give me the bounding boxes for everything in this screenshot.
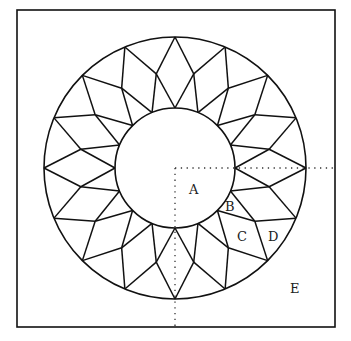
star-edge — [217, 210, 228, 247]
star-edge — [175, 74, 194, 108]
star-edge — [235, 168, 269, 187]
label-d: D — [268, 229, 278, 244]
star-edge — [230, 115, 254, 145]
diagram-canvas: A B C D E — [0, 0, 351, 341]
star-edge — [156, 74, 175, 108]
star-edge — [81, 145, 120, 149]
star-edge — [230, 187, 269, 191]
star-edge — [269, 149, 306, 168]
star-edge — [95, 115, 119, 145]
star-edge — [95, 210, 132, 221]
star-edge — [54, 218, 95, 221]
star-edge — [156, 37, 175, 74]
star-edge — [54, 118, 81, 149]
star-edge — [82, 75, 121, 88]
star-edge — [217, 210, 254, 221]
label-c: C — [237, 229, 247, 244]
star-edge — [255, 221, 268, 260]
star-edge — [255, 218, 296, 221]
star-edge — [228, 75, 267, 88]
star-edge — [255, 75, 268, 114]
star-edge — [152, 223, 156, 262]
star-edge — [44, 168, 81, 187]
star-edge — [81, 149, 115, 168]
star-edge — [81, 187, 120, 191]
star-edge — [125, 47, 156, 74]
star-edge — [217, 115, 254, 126]
star-edge — [225, 248, 228, 289]
star-edge — [235, 149, 269, 168]
star-edge — [95, 115, 132, 126]
star-edge — [122, 223, 152, 247]
star-edge — [125, 262, 156, 289]
star-edge — [269, 118, 296, 149]
star-edge — [269, 187, 296, 218]
star-edge — [194, 223, 198, 262]
star-edge — [198, 88, 228, 112]
star-edge — [225, 47, 228, 88]
star-edge — [122, 210, 133, 247]
star-edge — [255, 115, 296, 118]
star-edge — [230, 145, 269, 149]
star-edge — [156, 228, 175, 262]
star-edge — [122, 88, 152, 112]
star-edge — [122, 88, 133, 125]
star-edge — [269, 168, 306, 187]
star-edge — [175, 262, 194, 299]
star-edge — [194, 47, 225, 74]
star-edge — [122, 248, 125, 289]
star-edge — [81, 168, 115, 187]
star-edge — [194, 262, 225, 289]
star-edge — [156, 262, 175, 299]
star-edge — [82, 221, 95, 260]
star-edge — [217, 88, 228, 125]
star-edge — [82, 248, 121, 261]
label-a: A — [188, 182, 199, 197]
star-edge — [194, 74, 198, 113]
star-edge — [198, 223, 228, 247]
star-edge — [82, 75, 95, 114]
star-edge — [175, 37, 194, 74]
star-edge — [152, 74, 156, 113]
star-edge — [122, 47, 125, 88]
quilt-diagram: A B C D E — [0, 0, 351, 341]
label-e: E — [290, 281, 300, 296]
star-edge — [44, 149, 81, 168]
label-b: B — [225, 199, 235, 214]
star-edge — [54, 115, 95, 118]
star-edge — [95, 191, 119, 221]
star-edge — [175, 228, 194, 262]
star-edge — [228, 248, 267, 261]
star-edge — [54, 187, 81, 218]
